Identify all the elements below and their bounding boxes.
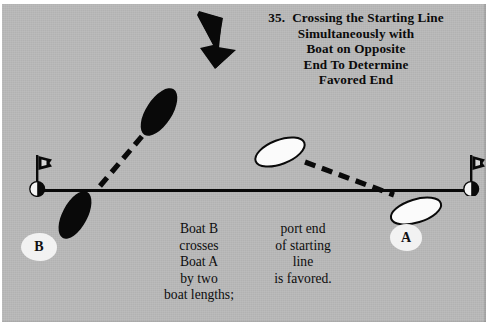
boat-a-label: A <box>390 224 422 251</box>
boat-b-label-text: B <box>34 239 43 255</box>
boat-b-label: B <box>21 233 57 261</box>
caption-right-line-3: line <box>255 254 351 271</box>
caption-left-line-3: Boat A <box>147 254 251 271</box>
caption-left-column: Boat B crosses Boat A by two boat length… <box>147 221 251 304</box>
caption-right-column: port end of starting line is favored. <box>255 221 351 287</box>
caption-left-line-5: boat lengths; <box>147 287 251 304</box>
diagram-background: 35.Crossing the Starting Line Simultaneo… <box>2 4 486 322</box>
boat-a-hull-upper <box>251 131 308 172</box>
figure-canvas: 35.Crossing the Starting Line Simultaneo… <box>0 0 488 326</box>
boat-a-label-text: A <box>401 230 411 246</box>
caption-left-line-1: Boat B <box>147 221 251 238</box>
caption-left-line-2: crosses <box>147 238 251 255</box>
caption-right-line-4: is favored. <box>255 271 351 288</box>
boat-a-track <box>305 162 394 195</box>
caption-right-line-1: port end <box>255 221 351 238</box>
caption-right-line-2: of starting <box>255 238 351 255</box>
caption-left-line-4: by two <box>147 271 251 288</box>
